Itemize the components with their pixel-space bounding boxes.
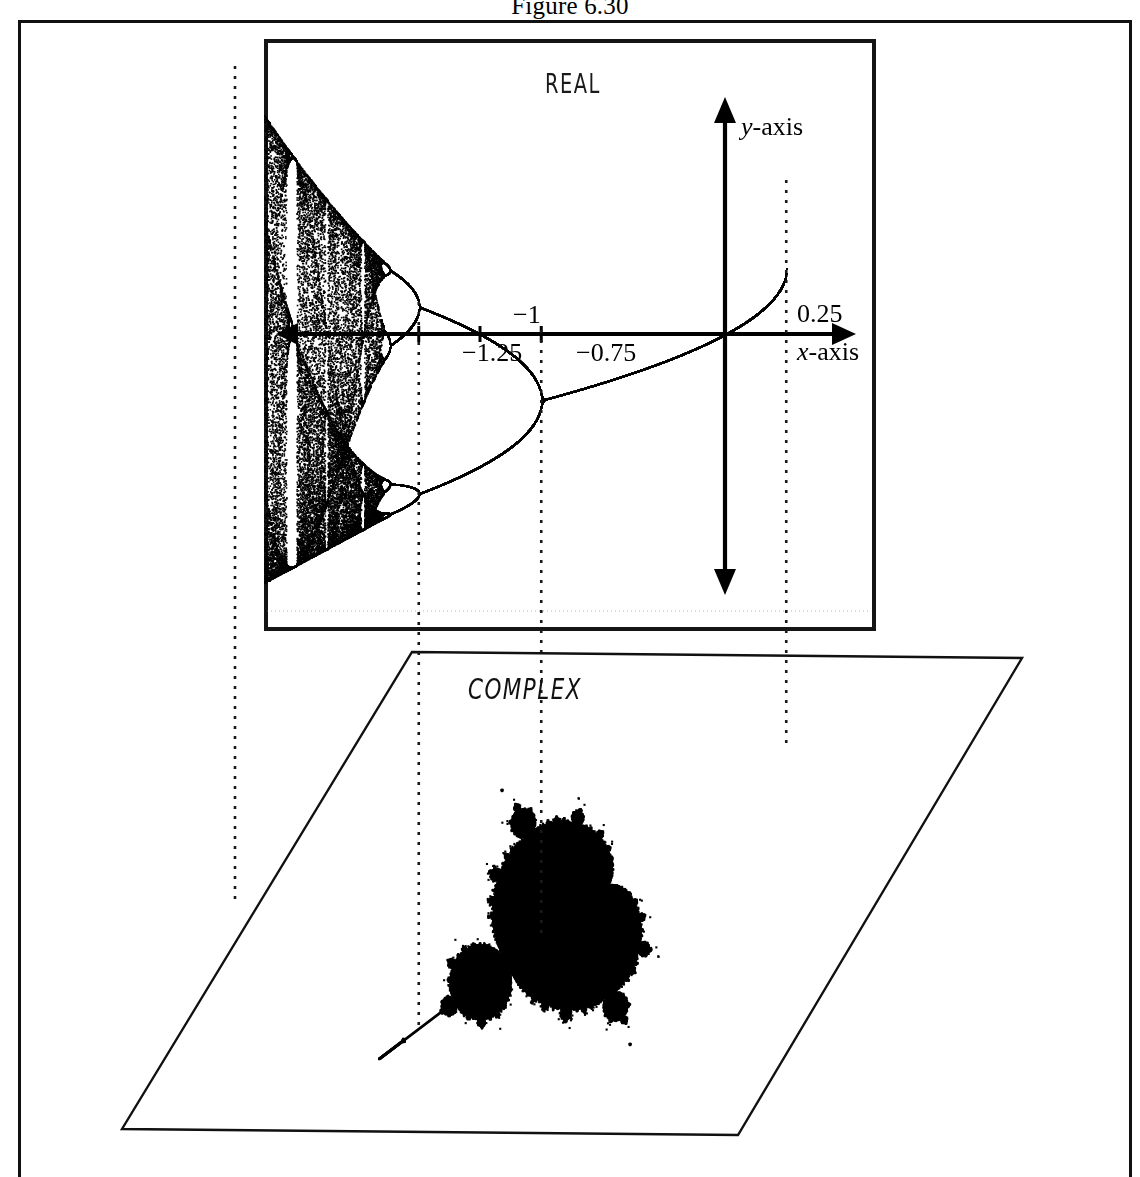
guide-lines-canvas: [0, 0, 1140, 1177]
complex-panel-title: COMPLEX: [468, 672, 582, 706]
y-axis-label: y-axis: [741, 112, 803, 142]
real-panel-title: REAL: [545, 68, 601, 99]
tick-label-neg075: −0.75: [576, 338, 636, 368]
tick-label-neg1: −1: [513, 300, 541, 330]
tick-label-neg125: −1.25: [462, 338, 522, 368]
x-axis-label: x-axis: [797, 337, 859, 367]
figure-root: Figure 6.30 REAL COMPLEX y-axis x-axis −…: [0, 0, 1140, 1177]
tick-label-025: 0.25: [797, 299, 843, 329]
